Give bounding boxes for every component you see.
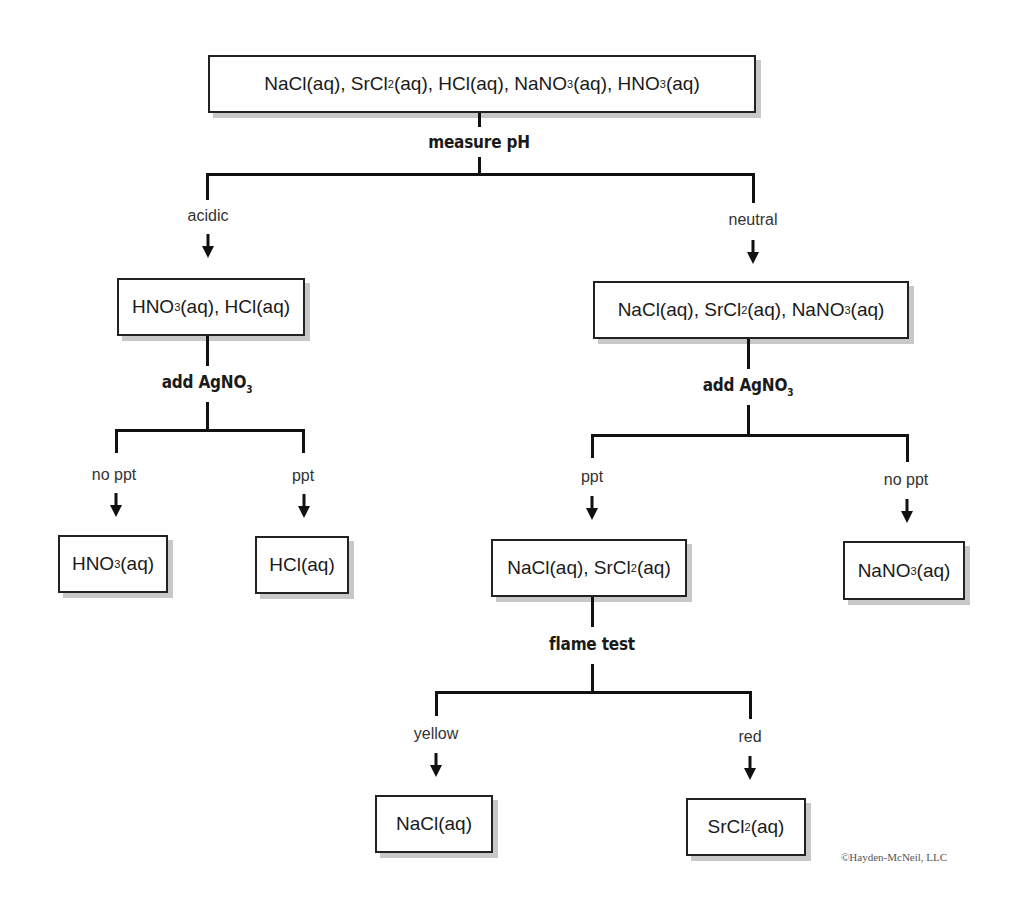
label-acidic-ppt: ppt [292,467,314,485]
measure-ph-step: measure pH [428,132,530,152]
label-neutral: neutral [729,211,778,229]
connector [206,173,209,200]
connector [747,339,750,369]
arrow-down-icon [297,494,311,518]
connector [749,691,752,719]
nano3-result-box: NaNO3(aq) [843,541,965,600]
add-agno3-step-acidic: add AgNO3 [162,372,253,395]
neutral-solutions-box: NaCl(aq), SrCl2(aq), NaNO3(aq) [593,281,909,339]
connector [591,597,594,627]
connector [206,402,209,430]
connector [478,113,481,127]
connector [591,434,594,458]
hcl-result-box: HCl(aq) [255,536,349,594]
connector [206,173,755,176]
arrow-down-icon [585,496,599,520]
arrow-down-icon [429,753,443,777]
label-neutral-no-ppt: no ppt [884,471,928,489]
connector [115,429,118,453]
label-acidic: acidic [188,207,229,225]
connector [747,405,750,435]
hno3-result-box: HNO3(aq) [58,535,168,593]
nacl-srcl2-box: NaCl(aq), SrCl2(aq) [491,539,687,597]
connector [591,434,909,437]
connector [906,434,909,462]
root-solutions-box: NaCl(aq), SrCl2(aq), HCl(aq), NaNO3(aq),… [208,55,756,113]
arrow-down-icon [201,234,215,258]
arrow-down-icon [746,240,760,264]
acidic-solutions-box: HNO3(aq), HCl(aq) [117,278,305,336]
label-neutral-ppt: ppt [581,468,603,486]
label-yellow: yellow [414,725,458,743]
connector [435,691,752,694]
arrow-down-icon [109,493,123,517]
arrow-down-icon [900,499,914,523]
label-acidic-no-ppt: no ppt [92,466,136,484]
add-agno3-step-neutral: add AgNO3 [703,375,794,398]
label-red: red [738,728,761,746]
connector [478,157,481,174]
flame-test-step: flame test [549,634,635,654]
connector [752,173,755,203]
srcl2-result-box: SrCl2(aq) [686,798,806,856]
connector [302,429,305,453]
connector [435,691,438,716]
copyright-notice: ©Hayden-McNeil, LLC [841,851,947,863]
arrow-down-icon [743,756,757,780]
connector [115,429,305,432]
connector [591,664,594,692]
nacl-result-box: NaCl(aq) [375,795,493,853]
connector [206,336,209,366]
